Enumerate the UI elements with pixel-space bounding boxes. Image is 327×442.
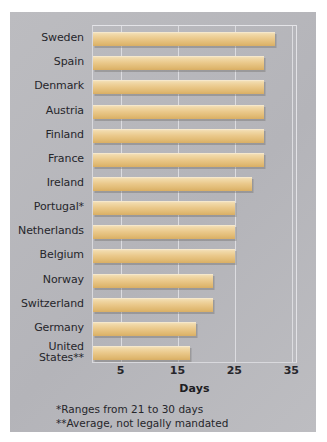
bar-series: SwedenSpainDenmarkAustriaFinlandFranceIr… bbox=[93, 26, 296, 362]
bar bbox=[93, 105, 264, 119]
bar-row: Belgium bbox=[93, 249, 296, 265]
category-label: Belgium bbox=[40, 249, 84, 260]
bar bbox=[93, 153, 264, 167]
category-label: Switzerland bbox=[21, 298, 84, 309]
category-label: Germany bbox=[34, 322, 84, 333]
bar-row: Ireland bbox=[93, 177, 296, 193]
x-tick-label: 5 bbox=[117, 364, 125, 377]
bar bbox=[93, 177, 252, 191]
category-label: UnitedStates** bbox=[39, 341, 84, 363]
bar-row: Spain bbox=[93, 56, 296, 72]
bar-row: Denmark bbox=[93, 80, 296, 96]
x-axis-title: Days bbox=[92, 382, 297, 395]
category-label-line2: States** bbox=[39, 352, 84, 363]
category-label: Spain bbox=[54, 56, 84, 67]
category-label: Finland bbox=[45, 129, 84, 140]
bar-row: Sweden bbox=[93, 32, 296, 48]
category-label: Denmark bbox=[34, 80, 84, 91]
category-label: Sweden bbox=[41, 32, 84, 43]
bar bbox=[93, 32, 275, 46]
bar-row: Portugal* bbox=[93, 201, 296, 217]
bar bbox=[93, 322, 196, 336]
bar bbox=[93, 201, 235, 215]
bar-row: Germany bbox=[93, 322, 296, 338]
category-label: France bbox=[48, 153, 84, 164]
bar-row: Switzerland bbox=[93, 298, 296, 314]
bar-row: Norway bbox=[93, 274, 296, 290]
bar bbox=[93, 80, 264, 94]
x-tick-label: 25 bbox=[227, 364, 242, 377]
footnote-single-asterisk: *Ranges from 21 to 30 days bbox=[56, 402, 296, 416]
bar-row: France bbox=[93, 153, 296, 169]
category-label: Norway bbox=[43, 274, 84, 285]
bar bbox=[93, 298, 213, 312]
bar-row: Finland bbox=[93, 129, 296, 145]
category-label: Portugal* bbox=[34, 201, 84, 212]
category-label: Austria bbox=[46, 105, 84, 116]
bar bbox=[93, 274, 213, 288]
x-axis-ticks: 5152535 bbox=[92, 364, 297, 382]
bar-row: Austria bbox=[93, 105, 296, 121]
category-label: Ireland bbox=[47, 177, 84, 188]
bar bbox=[93, 225, 235, 239]
bar bbox=[93, 56, 264, 70]
bar bbox=[93, 249, 235, 263]
chart-figure: SwedenSpainDenmarkAustriaFinlandFranceIr… bbox=[10, 12, 316, 432]
footnote-double-asterisk: **Average, not legally mandated bbox=[56, 416, 296, 430]
x-tick-label: 15 bbox=[170, 364, 185, 377]
category-label: Netherlands bbox=[18, 225, 84, 236]
bar-row: UnitedStates** bbox=[93, 346, 296, 362]
bar-row: Netherlands bbox=[93, 225, 296, 241]
footnotes: *Ranges from 21 to 30 days **Average, no… bbox=[56, 402, 296, 430]
plot-area: SwedenSpainDenmarkAustriaFinlandFranceIr… bbox=[92, 25, 297, 363]
bar bbox=[93, 346, 190, 360]
bar bbox=[93, 129, 264, 143]
x-tick-label: 35 bbox=[284, 364, 299, 377]
